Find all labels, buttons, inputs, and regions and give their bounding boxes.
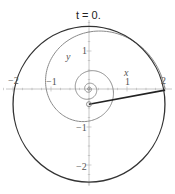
y-tick-1: 1: [82, 46, 87, 56]
y-tick-minus-1: −1: [76, 123, 87, 133]
x-tick-minus-1: −1: [46, 77, 57, 87]
x-tick-minus-2: −2: [8, 76, 19, 86]
spiral-curve: [46, 31, 165, 122]
x-tick-1: 1: [125, 77, 130, 87]
plot-title: t = 0.: [76, 10, 101, 21]
y-axis-label: y: [66, 52, 70, 62]
diagram-canvas: [0, 0, 175, 194]
x-tick-2: 2: [161, 76, 166, 86]
y-tick-minus-2: −2: [76, 162, 87, 172]
radius-segment: [89, 90, 165, 104]
